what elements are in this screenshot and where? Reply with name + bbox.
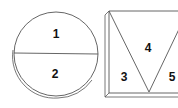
v-line-left xyxy=(109,11,149,92)
region-1-label: 1 xyxy=(53,27,60,41)
square-figure: 3 4 5 xyxy=(105,11,178,97)
square-bevel-edge xyxy=(105,93,109,97)
region-3-label: 3 xyxy=(121,70,128,84)
partition-diagram: 1 2 3 4 5 xyxy=(0,0,178,108)
region-2-label: 2 xyxy=(52,67,59,81)
region-4-label: 4 xyxy=(145,41,152,55)
circle-figure: 1 2 xyxy=(13,12,98,98)
region-5-label: 5 xyxy=(169,70,176,84)
